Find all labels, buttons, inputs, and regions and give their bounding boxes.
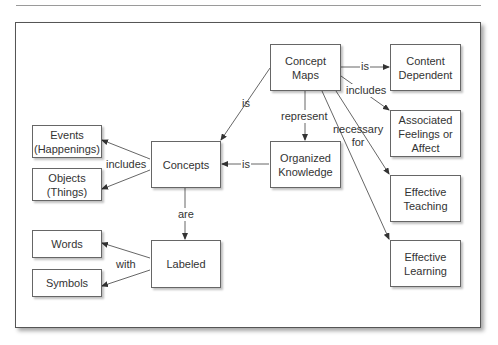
edge-label-represent: represent xyxy=(280,110,328,123)
edge-label-includes-concepts: includes xyxy=(105,158,147,171)
node-associated-feelings: Associated Feelings or Affect xyxy=(390,110,461,157)
node-concept-maps: Concept Maps xyxy=(270,44,341,91)
edge-label-are: are xyxy=(177,208,195,221)
edge-concepts-events xyxy=(102,140,150,159)
node-symbols: Symbols xyxy=(32,269,102,297)
edge-labeled-words xyxy=(102,243,150,258)
edge-label-includes-feelings: includes xyxy=(345,84,387,97)
node-events: Events (Happenings) xyxy=(32,125,102,158)
node-effective-teaching: Effective Teaching xyxy=(390,175,461,222)
edge-labeled-symbols xyxy=(102,270,150,286)
edge-label-is-content: is xyxy=(360,60,370,73)
node-labeled: Labeled xyxy=(151,240,221,288)
node-organized-knowledge: Organized Knowledge xyxy=(270,141,341,188)
edge-label-is-organized: is xyxy=(241,158,251,171)
edge-label-is-concepts: is xyxy=(241,97,251,110)
edge-label-with: with xyxy=(115,258,137,271)
node-effective-learning: Effective Learning xyxy=(390,240,461,287)
node-objects: Objects (Things) xyxy=(32,168,102,201)
node-content-dependent: Content Dependent xyxy=(390,44,461,91)
node-words: Words xyxy=(32,230,102,258)
node-concepts: Concepts xyxy=(151,141,221,188)
edge-concepts-objects xyxy=(102,170,150,189)
